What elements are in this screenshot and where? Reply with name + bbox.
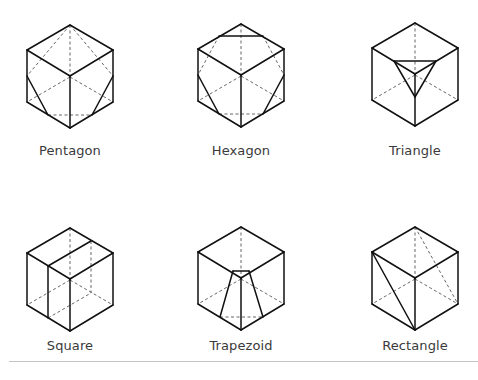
cube-edge [415,252,458,278]
hidden-edge [372,75,415,100]
cube-edge [70,25,113,50]
cube-edge [415,304,458,330]
cube-edge [415,23,458,48]
hidden-edge [198,279,241,304]
cube-triangle [372,23,458,126]
section-edge [415,61,436,97]
cube-edge [415,100,458,126]
section-hidden-edge [70,25,113,76]
section-edge [394,61,415,97]
cube-edge [241,49,284,75]
cube-hexagon [198,24,284,127]
cube-edge [27,25,70,50]
cube-edge [70,50,113,76]
cube-edge [27,50,70,76]
cube-edge [241,227,284,252]
bottom-divider [9,361,478,362]
label-triangle: Triangle [389,143,441,158]
section-edge [48,241,91,266]
cube-rectangle [372,227,458,330]
cube-trapezoid [198,227,284,330]
hidden-edge [415,279,458,304]
section-edge [372,252,415,330]
label-trapezoid: Trapezoid [209,338,272,353]
hidden-edge [415,75,458,100]
section-hidden-edge [27,25,70,76]
cube-edge [372,23,415,48]
cube-cross-sections-figure [0,0,478,380]
cube-edge [372,100,415,126]
cube-edge [241,252,284,278]
label-hexagon: Hexagon [212,143,270,158]
cube-square [27,228,113,331]
section-edge [249,271,263,317]
cube-edge [70,305,113,331]
cube-pentagon [27,25,113,128]
cube-edge [70,253,113,279]
cube-edge [198,252,241,278]
cube-edge [415,227,458,252]
cube-edge [27,228,70,253]
label-pentagon: Pentagon [39,143,101,158]
cube-edge [198,49,241,75]
label-rectangle: Rectangle [382,338,448,353]
hidden-edge [241,279,284,304]
cube-edge [198,227,241,252]
section-edge [220,271,233,317]
cube-edge [372,227,415,252]
label-square: Square [47,338,93,353]
